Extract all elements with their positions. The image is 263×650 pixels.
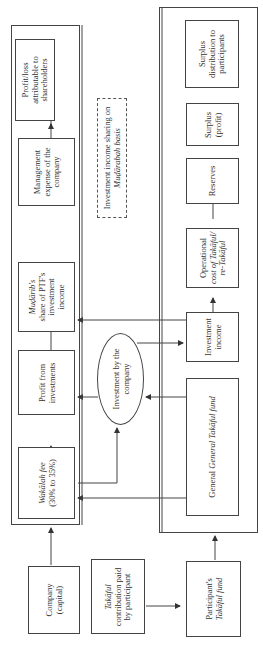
management-expense-box: Managementexpense of thecompany (18, 138, 75, 206)
surplus-dist-line1: Surplus (197, 41, 207, 67)
pfund-line2: Takāful fund (213, 578, 223, 620)
general-fund-line: General Takāful fund (207, 396, 217, 468)
wakalah-fee-line2: (30% to 35%) (46, 459, 56, 507)
general-fund-pre: General (207, 469, 217, 498)
mgmt-line2: expense of the (41, 147, 51, 196)
pl-line1: Profit/loss (20, 63, 30, 98)
surplus-dist-line3: participants (216, 34, 226, 74)
mgmt-line1: Management (31, 150, 41, 194)
opcost-line1: Operational (197, 238, 207, 278)
ellipse-line2: company (120, 363, 130, 394)
investment-income-box: Investmentincome (186, 312, 239, 362)
mudarib-line2: share of PTF's (36, 273, 46, 322)
mudarib-share-box: Muḍārib'sshare of PTF'sinvestmentincome (18, 262, 75, 332)
ellipse-line1: Investment by the (110, 349, 120, 410)
note-line1: Investment income sharing on (102, 107, 112, 210)
note-line2: Muḍārabah basis (111, 128, 121, 188)
surplus-line2: (profit) (212, 112, 222, 137)
contribution-box: Takāfulcontribution paidby participant (91, 559, 145, 634)
operational-cost-box: Operationalcost of Takāful/re-Takāful (186, 228, 239, 288)
contrib-line1: Takāful (103, 584, 113, 609)
surplus-line1: Surplus (202, 112, 212, 138)
surplus-dist-line2: distribution to (206, 30, 216, 78)
reserves-line1: Reserves (207, 166, 217, 197)
mudarabah-note: Investment income sharing onMuḍārabah ba… (97, 98, 127, 218)
investment-by-company-ellipse: Investment by thecompany (97, 333, 144, 425)
contrib-line2: contribution paid (112, 567, 122, 625)
wakalah-fee-line1: Wakālah fee (36, 462, 46, 503)
general-takaful-fund-box: General General Takāful fund (186, 378, 239, 516)
surplus-distribution-box: Surplusdistribution toparticipants (185, 20, 239, 88)
inv-income-line1: Investment (202, 318, 212, 356)
contrib-line3: by participant (122, 573, 132, 620)
mudarib-line1: Muḍārib's (27, 280, 37, 315)
reserves-box: Reserves (186, 158, 239, 204)
profit-loss-shareholders-box: Profit/lossattributable toshareholders (15, 39, 55, 121)
participant-fund-box: Participant'sTakāful fund (186, 561, 241, 637)
wakalah-fee-box: Wakālah fee(30% to 35%) (18, 447, 75, 519)
pl-line2: attributable to (29, 56, 39, 103)
capital-line1: Company (44, 583, 54, 616)
opcost-line3: re-Takāful (216, 241, 226, 276)
capital-line2: (capital) (53, 586, 63, 614)
mudarib-line3: investment (46, 278, 56, 315)
company-capital-box: Company(capital) (28, 566, 80, 634)
inv-income-line2: income (212, 324, 222, 349)
pfund-line1: Participant's (203, 578, 213, 620)
surplus-profit-box: Surplus(profit) (186, 103, 239, 146)
pl-line3: shareholders (39, 59, 49, 102)
profit-investments-line1: Profit from (36, 363, 46, 401)
mgmt-line3: company (50, 156, 60, 187)
profit-from-investments-box: Profit frominvestments (18, 350, 75, 415)
opcost-line2: cost of Takāful/ (207, 232, 217, 284)
profit-investments-line2: investments (46, 362, 56, 403)
mudarib-line4: income (55, 284, 65, 309)
